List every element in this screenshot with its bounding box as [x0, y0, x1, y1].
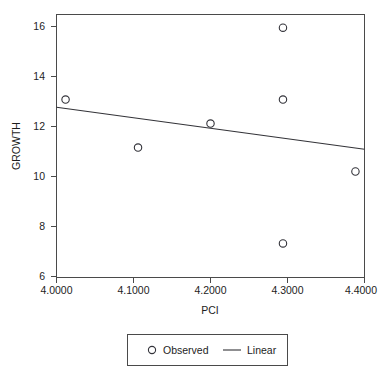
- x-axis-tick-labels: 4.0000 4.1000 4.2000 4.3000 4.4000: [40, 284, 377, 296]
- data-point: [279, 240, 286, 247]
- x-tick-label: 4.4000: [345, 284, 377, 296]
- chart-page: 16 14 12 10 8 6 GROWTH 4.0000 4.1000 4.2…: [0, 0, 380, 380]
- x-tick-label: 4.1000: [117, 284, 149, 296]
- data-point: [207, 120, 214, 127]
- data-point: [62, 96, 69, 103]
- linear-fit-line: [57, 107, 365, 149]
- x-axis-title: PCI: [201, 304, 219, 316]
- x-axis-ticks: [57, 277, 365, 283]
- legend: Observed Linear: [128, 335, 288, 366]
- x-tick-label: 4.2000: [194, 284, 226, 296]
- x-tick-label: 4.0000: [40, 284, 72, 296]
- y-tick-label: 14: [33, 70, 45, 82]
- y-tick-label: 6: [39, 270, 45, 282]
- data-point: [279, 24, 286, 31]
- y-axis-title: GROWTH: [10, 122, 22, 170]
- y-axis-ticks: [51, 27, 57, 277]
- y-tick-label: 12: [33, 120, 45, 132]
- data-point: [134, 144, 141, 151]
- legend-label-linear: Linear: [247, 344, 277, 356]
- data-point: [352, 168, 359, 175]
- y-tick-label: 16: [33, 20, 45, 32]
- y-tick-label: 10: [33, 170, 45, 182]
- scatter-plot: 16 14 12 10 8 6 GROWTH 4.0000 4.1000 4.2…: [0, 0, 380, 380]
- data-point: [279, 96, 286, 103]
- y-axis-tick-labels: 16 14 12 10 8 6: [33, 20, 45, 282]
- y-tick-label: 8: [39, 220, 45, 232]
- legend-label-observed: Observed: [163, 344, 209, 356]
- plot-frame: [57, 15, 365, 278]
- data-point-markers: [62, 24, 359, 247]
- x-tick-label: 4.3000: [271, 284, 303, 296]
